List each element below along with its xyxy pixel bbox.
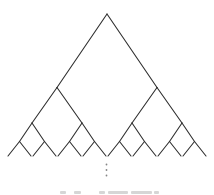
tree-edge — [132, 123, 145, 142]
tree-edge — [170, 123, 183, 142]
tree-edge — [158, 142, 170, 157]
tree-edge — [70, 142, 82, 157]
tree-edge — [133, 142, 145, 157]
tree-edge — [20, 123, 33, 142]
tree-edge — [157, 88, 182, 124]
tree-edge — [57, 88, 82, 124]
tree-edge — [183, 142, 195, 157]
tree-edge — [108, 142, 120, 157]
tree-edge — [82, 123, 95, 142]
tree-edge — [58, 142, 70, 157]
ellipsis-dot — [106, 175, 108, 177]
vertical-ellipsis-icon — [106, 164, 108, 177]
tree-edge — [32, 123, 45, 142]
tree-edge — [120, 142, 132, 157]
binary-tree-diagram — [0, 0, 214, 195]
tree-edge — [182, 123, 195, 142]
tree-edge — [57, 14, 107, 88]
tree-edge — [20, 142, 32, 157]
tree-edge — [107, 14, 157, 88]
tree-edge — [132, 88, 157, 124]
tree-edge — [33, 142, 45, 157]
tree-edge — [8, 142, 20, 157]
tree-edge — [83, 142, 95, 157]
binary-tree-figure — [0, 0, 214, 195]
ellipsis-dot — [106, 164, 108, 166]
tree-edge — [95, 142, 107, 157]
tree-edge — [145, 142, 157, 157]
tree-edge — [120, 123, 133, 142]
tree-edge — [45, 142, 57, 157]
tree-edge — [195, 142, 207, 157]
tree-edge — [170, 142, 182, 157]
tree-edge — [32, 88, 57, 124]
ellipsis-dot — [106, 169, 108, 171]
tree-edge — [70, 123, 83, 142]
